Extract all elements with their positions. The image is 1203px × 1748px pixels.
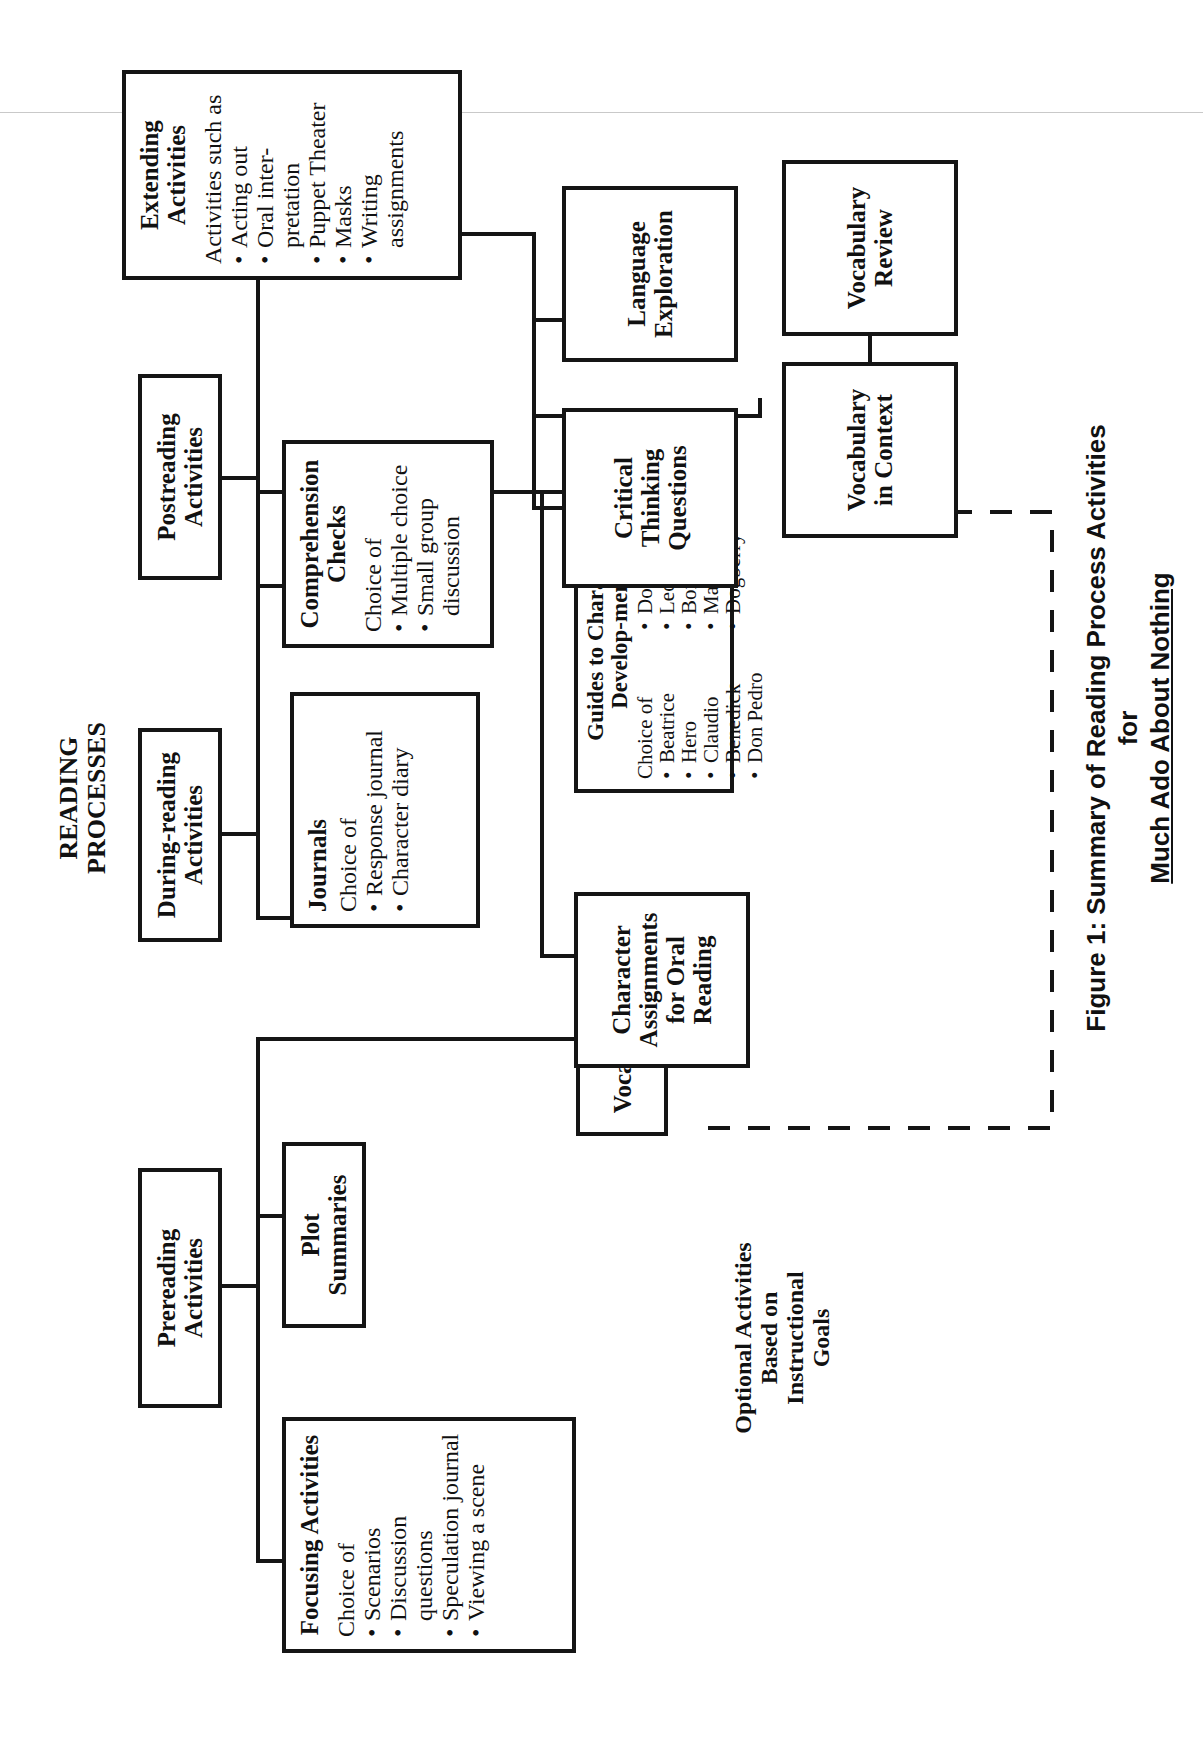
optional-activities-label: Optional Activities Based on Instruction… — [730, 1198, 834, 1478]
figure-title: Much Ado About Nothing — [1144, 408, 1176, 1048]
optional-dashed-connector — [0, 0, 1203, 1748]
diagram-canvas: READING PROCESSES Prereading Activities … — [0, 0, 1203, 1748]
figure-caption: Figure 1: Summary of Reading Process Act… — [1080, 408, 1176, 1048]
